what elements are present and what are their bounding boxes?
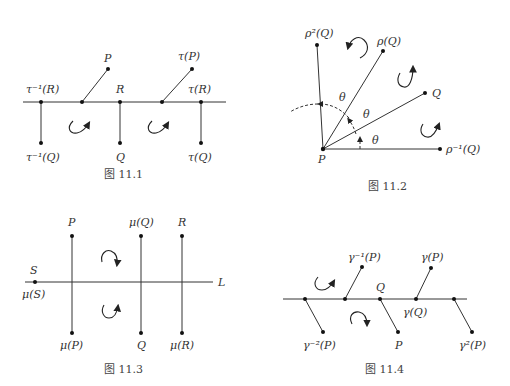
figure-11-2: θ θ θ ρ²(Q) ρ(Q) Q ρ⁻¹(Q) P 图 11.2	[290, 27, 480, 193]
rotation-arrow-icon	[148, 121, 168, 133]
label-p: P	[103, 52, 112, 65]
point	[106, 67, 110, 71]
label-gamma-p: γ(P)	[421, 251, 444, 264]
label-gamma-q: γ(Q)	[403, 306, 427, 319]
point	[381, 49, 385, 53]
label-mu-r: μ(R)	[170, 339, 194, 352]
label-rho-q: ρ(Q)	[376, 35, 401, 48]
label-s: S	[30, 264, 38, 277]
label-tau-inv-r: τ⁻¹(R)	[26, 83, 59, 96]
angle-arc	[290, 104, 318, 112]
point	[39, 141, 43, 145]
point	[139, 331, 143, 335]
label-rho2-q: ρ²(Q)	[304, 27, 333, 40]
point	[360, 265, 364, 269]
rotation-arrow-icon	[102, 251, 118, 265]
point	[180, 331, 184, 335]
label-mu-p: μ(P)	[60, 339, 83, 352]
label-r: R	[177, 216, 186, 229]
point	[343, 297, 347, 301]
point	[438, 147, 442, 151]
figure-caption: 图 11.4	[365, 363, 404, 376]
label-theta: θ	[339, 91, 346, 104]
label-q: Q	[116, 151, 125, 164]
point	[70, 331, 74, 335]
figure-11-1: P τ(P) τ⁻¹(R) R τ(R) τ⁻¹(Q) Q τ(Q) 图 11.…	[23, 50, 226, 181]
point	[118, 141, 122, 145]
segment	[345, 267, 362, 299]
point	[429, 266, 433, 270]
point	[139, 234, 143, 238]
label-tau-r: τ(R)	[188, 83, 211, 96]
figure-11-4: γ⁻¹(P) γ(P) Q γ(Q) γ⁻²(P) P γ²(P) 图 11.4	[283, 251, 486, 376]
label-gamma-inv2-p: γ⁻²(P)	[303, 339, 336, 352]
rotation-arrow-icon	[315, 277, 334, 290]
label-gamma-inv-p: γ⁻¹(P)	[348, 251, 381, 264]
ray	[317, 45, 323, 149]
point	[303, 297, 307, 301]
rotation-arrow-icon	[102, 305, 118, 318]
rotation-arrow-icon	[351, 312, 367, 325]
point	[199, 100, 203, 104]
point	[80, 100, 84, 104]
figure-caption: 图 11.2	[368, 180, 407, 193]
angle-arrow-icon	[349, 120, 356, 134]
point	[180, 234, 184, 238]
label-rho-inv-q: ρ⁻¹(Q)	[445, 143, 480, 156]
figure-caption: 图 11.3	[104, 363, 143, 376]
rotation-arrow-icon	[69, 121, 89, 133]
point-center	[321, 147, 325, 151]
point	[423, 91, 427, 95]
segment	[305, 299, 323, 332]
label-mu-q: μ(Q)	[129, 216, 154, 229]
label-q: Q	[137, 339, 146, 352]
label-q: Q	[376, 281, 385, 294]
figure-11-3: P μ(Q) R S μ(S) L μ(P) Q μ(R) 图 11.3	[22, 216, 225, 376]
rotation-arrow-icon	[348, 38, 367, 58]
point	[118, 100, 122, 104]
point	[452, 297, 456, 301]
label-tau-p: τ(P)	[178, 50, 200, 63]
label-theta: θ	[372, 134, 379, 147]
label-p: P	[67, 216, 76, 229]
point	[39, 100, 43, 104]
point	[160, 100, 164, 104]
label-q: Q	[432, 87, 441, 100]
angle-arrow-icon	[320, 104, 349, 118]
label-tau-inv-q: τ⁻¹(Q)	[26, 151, 60, 164]
point	[190, 67, 194, 71]
label-p: P	[394, 339, 403, 352]
label-l: L	[217, 276, 225, 289]
point	[470, 330, 474, 334]
point	[396, 330, 400, 334]
point	[414, 297, 418, 301]
point	[70, 234, 74, 238]
label-p: P	[317, 153, 326, 166]
figure-caption: 图 11.1	[104, 168, 143, 181]
point	[321, 330, 325, 334]
point	[199, 141, 203, 145]
label-mu-s: μ(S)	[22, 288, 45, 301]
segment	[380, 299, 398, 332]
point	[315, 43, 319, 47]
rotation-arrow-icon	[398, 67, 413, 87]
label-r: R	[115, 83, 124, 96]
segment	[416, 268, 431, 299]
segment	[82, 69, 108, 102]
point	[33, 280, 37, 284]
label-tau-q: τ(Q)	[188, 151, 212, 164]
segment	[454, 299, 472, 332]
rotation-arrow-icon	[421, 124, 439, 137]
label-gamma2-p: γ²(P)	[459, 339, 486, 352]
point	[378, 297, 382, 301]
label-theta: θ	[363, 108, 370, 121]
figures-canvas: P τ(P) τ⁻¹(R) R τ(R) τ⁻¹(Q) Q τ(Q) 图 11.…	[0, 0, 510, 386]
